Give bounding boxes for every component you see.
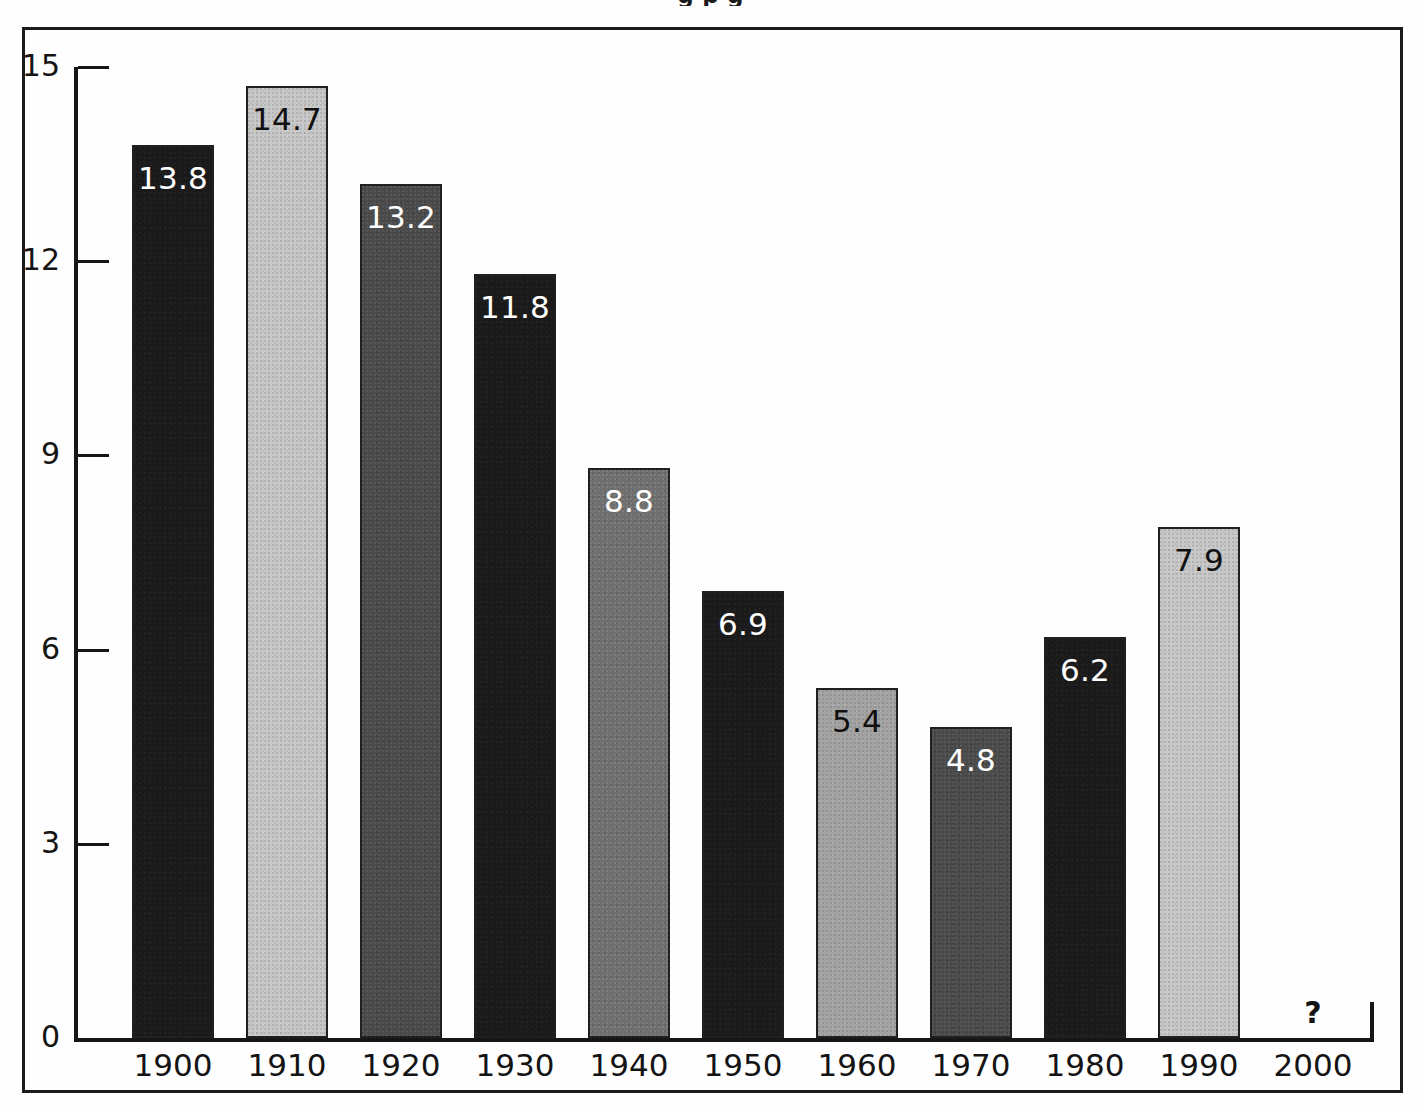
bar-1970[interactable]: 4.8	[930, 727, 1012, 1038]
bar-value-label-1950: 6.9	[704, 609, 782, 640]
bar-1930[interactable]: 11.8	[474, 274, 556, 1038]
x-axis-label-1960: 1960	[816, 1050, 898, 1081]
bar-1940[interactable]: 8.8	[588, 468, 670, 1038]
x-axis-endcap	[1370, 1002, 1374, 1042]
y-axis-tick-label-6: 6	[14, 634, 60, 664]
x-axis-label-1990: 1990	[1158, 1050, 1240, 1081]
x-axis-line	[74, 1038, 1374, 1042]
y-axis-tick-9	[78, 454, 109, 457]
bar-1950[interactable]: 6.9	[702, 591, 784, 1038]
bar-value-label-1910: 14.7	[248, 104, 326, 135]
bar-value-label-1920: 13.2	[362, 202, 440, 233]
y-axis-tick-label-15: 15	[14, 51, 60, 81]
y-axis-tick-label-3: 3	[14, 828, 60, 858]
x-axis-label-1900: 1900	[132, 1050, 214, 1081]
x-axis-label-1930: 1930	[474, 1050, 556, 1081]
x-axis-label-1950: 1950	[702, 1050, 784, 1081]
y-axis-tick-6	[78, 649, 109, 652]
x-axis-label-1920: 1920	[360, 1050, 442, 1081]
bar-value-label-1900: 13.8	[134, 163, 212, 194]
x-axis-label-1910: 1910	[246, 1050, 328, 1081]
x-axis-label-2000: 2000	[1272, 1050, 1354, 1081]
plot-area: 15129630 13.814.713.211.88.86.95.44.86.2…	[0, 0, 1421, 1110]
bar-value-label-1930: 11.8	[476, 292, 554, 323]
x-axis-label-1970: 1970	[930, 1050, 1012, 1081]
bar-value-label-1990: 7.9	[1160, 545, 1238, 576]
bar-value-label-1960: 5.4	[818, 706, 896, 737]
bar-1920[interactable]: 13.2	[360, 184, 442, 1038]
y-axis-tick-label-0: 0	[14, 1022, 60, 1052]
y-axis-line	[74, 67, 78, 1041]
bar-value-label-1970: 4.8	[932, 745, 1010, 776]
bar-1980[interactable]: 6.2	[1044, 637, 1126, 1038]
bar-value-label-1980: 6.2	[1046, 655, 1124, 686]
chart-page: g p g 15129630 13.814.713.211.88.86.95.4…	[0, 0, 1421, 1110]
x-axis-label-1980: 1980	[1044, 1050, 1126, 1081]
bar-1900[interactable]: 13.8	[132, 145, 214, 1038]
bar-1960[interactable]: 5.4	[816, 688, 898, 1038]
y-axis-tick-label-12: 12	[14, 245, 60, 275]
y-axis-tick-15	[78, 66, 109, 69]
bar-1990[interactable]: 7.9	[1158, 527, 1240, 1038]
y-axis-tick-12	[78, 260, 109, 263]
bar-1910[interactable]: 14.7	[246, 86, 328, 1038]
missing-data-marker: ?	[1272, 998, 1354, 1028]
y-axis-tick-3	[78, 843, 109, 846]
y-axis-tick-label-9: 9	[14, 439, 60, 469]
bar-value-label-1940: 8.8	[590, 486, 668, 517]
x-axis-label-1940: 1940	[588, 1050, 670, 1081]
